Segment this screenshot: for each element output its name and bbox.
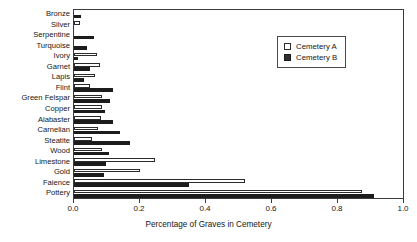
bar-cemetery-a xyxy=(74,21,80,25)
bar-cemetery-b xyxy=(74,15,81,19)
bar-cemetery-b xyxy=(74,183,189,187)
legend-item-cemetery-b: Cemetery B xyxy=(284,52,337,63)
bar-row xyxy=(74,158,403,169)
bar-row xyxy=(74,73,403,84)
category-label: Turquoise xyxy=(1,41,73,52)
bar-cemetery-a xyxy=(74,84,90,88)
bar-cemetery-b xyxy=(74,99,110,103)
category-label: Lapis xyxy=(1,72,73,83)
bar-cemetery-a xyxy=(74,74,95,78)
bar-cemetery-b xyxy=(74,131,120,135)
bar-cemetery-b xyxy=(74,162,106,166)
category-label: Alabaster xyxy=(1,115,73,126)
x-tick-label: 0.6 xyxy=(251,203,291,214)
bar-row xyxy=(74,105,403,116)
bar-chart: BronzeSilverSerpentineTurquoiseIvoryGarn… xyxy=(0,0,417,242)
category-label: Pottery xyxy=(1,188,73,199)
bar-cemetery-a xyxy=(74,190,362,194)
bar-cemetery-b xyxy=(74,78,84,82)
legend-label-cemetery-a: Cemetery A xyxy=(296,42,337,51)
bar-row xyxy=(74,63,403,74)
legend-item-cemetery-a: Cemetery A xyxy=(284,41,337,52)
category-label: Carnelian xyxy=(1,125,73,136)
bar-row xyxy=(74,84,403,95)
x-tick-label: 0.0 xyxy=(53,203,93,214)
bar-cemetery-a xyxy=(74,137,92,141)
bar-row xyxy=(74,94,403,105)
category-label: Serpentine xyxy=(1,30,73,41)
bar-cemetery-a xyxy=(74,169,140,173)
bar-row xyxy=(74,42,403,53)
bar-cemetery-a xyxy=(74,105,102,109)
bar-cemetery-b xyxy=(74,141,130,145)
bar-cemetery-a xyxy=(74,179,245,183)
x-tick-label: 1.0 xyxy=(383,203,417,214)
category-label: Wood xyxy=(1,146,73,157)
x-axis-title: Percentage of Graves in Cemetery xyxy=(0,220,417,229)
category-label: Steatite xyxy=(1,136,73,147)
bar-cemetery-a xyxy=(74,116,101,120)
bar-cemetery-b xyxy=(74,120,113,124)
x-axis-ticks: 0.00.20.40.60.81.0 xyxy=(0,199,417,213)
y-axis-category-labels: BronzeSilverSerpentineTurquoiseIvoryGarn… xyxy=(0,9,73,199)
plot-area xyxy=(73,9,404,199)
bar-cemetery-b xyxy=(74,46,87,50)
legend-swatch-open-square-icon xyxy=(284,43,291,50)
x-tick-label: 0.4 xyxy=(185,203,225,214)
bar-row xyxy=(74,168,403,179)
bar-cemetery-b xyxy=(74,173,104,177)
chart-legend: Cemetery A Cemetery B xyxy=(277,36,346,68)
bar-cemetery-a xyxy=(74,95,102,99)
category-label: Ivory xyxy=(1,51,73,62)
bar-row xyxy=(74,126,403,137)
category-label: Bronze xyxy=(1,9,73,20)
bar-cemetery-b xyxy=(74,67,90,71)
category-label: Gold xyxy=(1,167,73,178)
bar-cemetery-b xyxy=(74,36,94,40)
bar-cemetery-a xyxy=(74,127,98,131)
bar-cemetery-a xyxy=(74,148,102,152)
bar-row xyxy=(74,21,403,32)
category-label: Copper xyxy=(1,104,73,115)
bar-cemetery-b xyxy=(74,194,374,198)
category-label: Limestone xyxy=(1,157,73,168)
bar-row xyxy=(74,137,403,148)
category-label: Silver xyxy=(1,20,73,31)
category-label: Faience xyxy=(1,178,73,189)
bar-row xyxy=(74,116,403,127)
bar-row xyxy=(74,52,403,63)
bar-row xyxy=(74,10,403,21)
x-tick-label: 0.8 xyxy=(317,203,357,214)
legend-label-cemetery-b: Cemetery B xyxy=(296,53,337,62)
bar-cemetery-a xyxy=(74,53,97,57)
bar-cemetery-a xyxy=(74,158,155,162)
bar-cemetery-b xyxy=(74,152,109,156)
category-label: Flint xyxy=(1,83,73,94)
category-label: Garnet xyxy=(1,62,73,73)
x-tick-label: 0.2 xyxy=(119,203,159,214)
legend-swatch-filled-square-icon xyxy=(284,54,291,61)
bar-cemetery-a xyxy=(74,63,100,67)
bar-cemetery-b xyxy=(74,88,113,92)
bar-cemetery-b xyxy=(74,110,105,114)
category-label: Green Felspar xyxy=(1,93,73,104)
bar-row xyxy=(74,31,403,42)
bar-row xyxy=(74,179,403,190)
bar-row xyxy=(74,147,403,158)
bar-cemetery-b xyxy=(74,57,78,61)
